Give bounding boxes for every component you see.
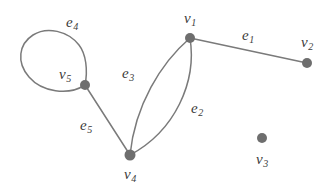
vertex-v1 bbox=[185, 33, 195, 43]
edge-label-e3: e3 bbox=[122, 66, 134, 81]
vertex-label-v3: v3 bbox=[256, 152, 268, 167]
graph-canvas bbox=[0, 0, 327, 187]
edge-e4-loop bbox=[21, 30, 87, 91]
vertex-v2 bbox=[302, 58, 312, 68]
edge-label-e2: e2 bbox=[191, 101, 203, 116]
edge-e2 bbox=[130, 38, 191, 155]
edge-label-e1: e1 bbox=[242, 28, 254, 43]
edge-label-e4: e4 bbox=[66, 15, 78, 30]
vertex-label-v4: v4 bbox=[124, 167, 136, 182]
vertex-label-v2: v2 bbox=[301, 35, 313, 50]
vertex-v4 bbox=[125, 150, 136, 161]
vertex-v5 bbox=[80, 80, 90, 90]
edge-label-e5: e5 bbox=[80, 118, 92, 133]
edge-e3 bbox=[130, 38, 190, 155]
vertex-label-v5: v5 bbox=[59, 67, 71, 82]
vertex-label-v1: v1 bbox=[184, 11, 196, 26]
vertex-v3 bbox=[257, 133, 267, 143]
graph-figure: v1 v2 v3 v4 v5 e1 e2 e3 e4 e5 bbox=[0, 0, 327, 187]
